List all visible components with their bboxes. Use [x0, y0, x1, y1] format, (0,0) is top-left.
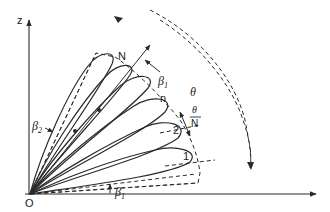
theta-label: θ: [190, 85, 196, 99]
lobe-label-1: 1: [183, 150, 189, 162]
beam-point: [97, 108, 101, 112]
beam-lobes: [30, 54, 192, 194]
beta1-top-arrow: [145, 60, 160, 72]
beam-lobes-diagram: z O N n 2 1 β1 θ θ N β2 β1: [0, 0, 330, 212]
theta-over-N-denominator: N: [191, 118, 198, 129]
lobe-label-N: N: [118, 50, 126, 62]
beta2-arrow: [45, 128, 53, 132]
beam-point: [73, 129, 77, 133]
z-axis-label: z: [17, 14, 23, 26]
theta-arc-arrow: [160, 20, 251, 165]
theta-over-N-numerator: θ: [192, 104, 197, 115]
main-beam-axis: [30, 45, 150, 194]
lobe-N: [30, 54, 113, 194]
lobe-label-n: n: [160, 92, 166, 104]
lobe-label-2: 2: [173, 124, 179, 136]
origin-label: O: [25, 197, 34, 209]
beta1-top-label: β1: [157, 74, 168, 90]
beta2-label: β2: [31, 119, 42, 135]
